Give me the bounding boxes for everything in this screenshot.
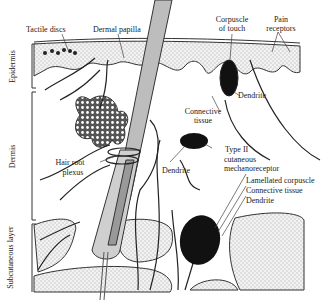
label-type2-2: cutaneous bbox=[224, 155, 256, 164]
skin-diagram bbox=[0, 0, 334, 308]
label-dendrite-type2: Dendrite bbox=[162, 166, 190, 175]
layer-brackets bbox=[32, 44, 36, 292]
label-tactile-discs: Tactile discs bbox=[26, 25, 66, 34]
label-corpuscle-of-touch-2: of touch bbox=[214, 24, 250, 33]
label-hair-root-plexus-1: Hair root bbox=[52, 158, 88, 167]
corpuscle-of-touch bbox=[220, 60, 238, 96]
label-connective-tissue-lam: Connective tissue bbox=[246, 186, 303, 195]
label-hair-root-plexus-2: plexus bbox=[58, 168, 88, 177]
label-type2-1: Type II bbox=[225, 145, 248, 154]
label-dendrite-touch: Dendrite bbox=[238, 91, 266, 100]
lamellated-corpuscle bbox=[176, 212, 224, 268]
label-epidermis: Epidermis bbox=[8, 47, 17, 87]
label-type2-3: mechanoreceptor bbox=[224, 164, 279, 173]
label-dermis: Dermis bbox=[8, 137, 17, 177]
label-pain-receptors-2: receptors bbox=[264, 24, 298, 33]
label-lamellated-corpuscle: Lamellated corpuscle bbox=[246, 176, 315, 185]
label-dendrite-lam: Dendrite bbox=[246, 196, 274, 205]
label-connective-tissue-2: tissue bbox=[182, 116, 224, 125]
epidermis bbox=[34, 38, 300, 76]
label-connective-tissue-1: Connective bbox=[182, 107, 224, 116]
label-corpuscle-of-touch-1: Corpuscle bbox=[214, 15, 250, 24]
label-pain-receptors-1: Pain bbox=[264, 15, 298, 24]
label-subcutaneous-layer: Subcutaneous layer bbox=[6, 218, 15, 298]
label-dermal-papilla: Dermal papilla bbox=[93, 25, 141, 34]
subcutaneous-fat bbox=[34, 213, 304, 292]
